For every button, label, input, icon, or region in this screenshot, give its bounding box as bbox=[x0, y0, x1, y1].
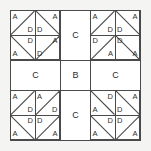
hst-unit-bottom-right: DA bbox=[35, 115, 61, 141]
patch-label-bl: D bbox=[37, 26, 42, 34]
hst-unit-top-right: DA bbox=[35, 10, 61, 36]
hst-unit-top-right: AD bbox=[35, 90, 61, 116]
hst-unit-bottom-right: DA bbox=[115, 35, 141, 61]
patch-label-br: D bbox=[28, 26, 33, 34]
patch-label-bl: D bbox=[117, 106, 122, 114]
patch-label-tl: A bbox=[13, 13, 18, 21]
patch-label-bl: D bbox=[37, 50, 42, 58]
patch-label-tl: D bbox=[37, 117, 42, 125]
patch-label-tl: D bbox=[117, 117, 122, 125]
hst-unit-top-right: DA bbox=[115, 90, 141, 116]
patch-label-tl: D bbox=[117, 37, 122, 45]
hst-unit-bottom-left: DA bbox=[90, 115, 116, 141]
patch-label-br: A bbox=[108, 50, 113, 58]
patch-label-br: D bbox=[52, 106, 57, 114]
hst-unit-bottom-left: DA bbox=[10, 35, 36, 61]
patch-label-tl: A bbox=[13, 93, 18, 101]
quilt-cell-bottom-left: ADADDADA bbox=[10, 90, 61, 141]
hst-unit-bottom-left: DA bbox=[10, 115, 36, 141]
patch-label-tr: D bbox=[108, 117, 113, 125]
patch-label-tr: D bbox=[28, 117, 33, 125]
patch-label-tr: A bbox=[52, 13, 57, 21]
quilt-cell-bottom-right: DADADADA bbox=[90, 90, 141, 141]
hst-unit-top-left: AD bbox=[90, 10, 116, 36]
patch-label-tr: A bbox=[132, 93, 137, 101]
quilt-cell-middle-right: C bbox=[90, 60, 141, 91]
hst-unit-bottom-left: DA bbox=[90, 35, 116, 61]
cell-label: C bbox=[112, 71, 119, 80]
patch-label-br: A bbox=[52, 130, 57, 138]
patch-label-br: A bbox=[132, 130, 137, 138]
hst-unit-bottom-right: DA bbox=[115, 115, 141, 141]
patch-label-br: D bbox=[28, 106, 33, 114]
cell-label: C bbox=[32, 71, 39, 80]
patch-label-bl: D bbox=[117, 26, 122, 34]
patch-label-bl: A bbox=[93, 130, 98, 138]
patch-label-tr: D bbox=[28, 37, 33, 45]
quilt-cell-top-left: ADDADAAD bbox=[10, 10, 61, 61]
patch-label-bl: A bbox=[13, 130, 18, 138]
patch-label-tl: D bbox=[93, 37, 98, 45]
cell-label: C bbox=[72, 111, 79, 120]
patch-label-tl: A bbox=[93, 13, 98, 21]
quilt-cell-top-center: C bbox=[60, 10, 91, 61]
patch-label-tr: A bbox=[132, 13, 137, 21]
patch-label-bl: A bbox=[93, 106, 98, 114]
hst-unit-top-right: DA bbox=[115, 10, 141, 36]
hst-unit-top-left: DA bbox=[90, 90, 116, 116]
patch-label-br: D bbox=[108, 26, 113, 34]
quilt-cell-middle-center: B bbox=[60, 60, 91, 91]
patch-label-tl: A bbox=[37, 93, 42, 101]
quilt-cell-bottom-center: C bbox=[60, 90, 91, 141]
hst-unit-top-left: AD bbox=[10, 90, 36, 116]
quilt-cell-middle-left: C bbox=[10, 60, 61, 91]
cell-label: C bbox=[72, 31, 79, 40]
quilt-cell-top-right: ADDADADA bbox=[90, 10, 141, 61]
patch-label-tr: D bbox=[108, 93, 113, 101]
hst-unit-bottom-right: AD bbox=[35, 35, 61, 61]
hst-unit-top-left: AD bbox=[10, 10, 36, 36]
quilt-block-diagram: ADDADAADCADDADADACBCADADDADACDADADADA bbox=[10, 10, 141, 141]
patch-label-br: A bbox=[132, 50, 137, 58]
cell-label: B bbox=[72, 71, 78, 80]
patch-label-tr: A bbox=[52, 37, 57, 45]
patch-label-bl: A bbox=[13, 50, 18, 58]
